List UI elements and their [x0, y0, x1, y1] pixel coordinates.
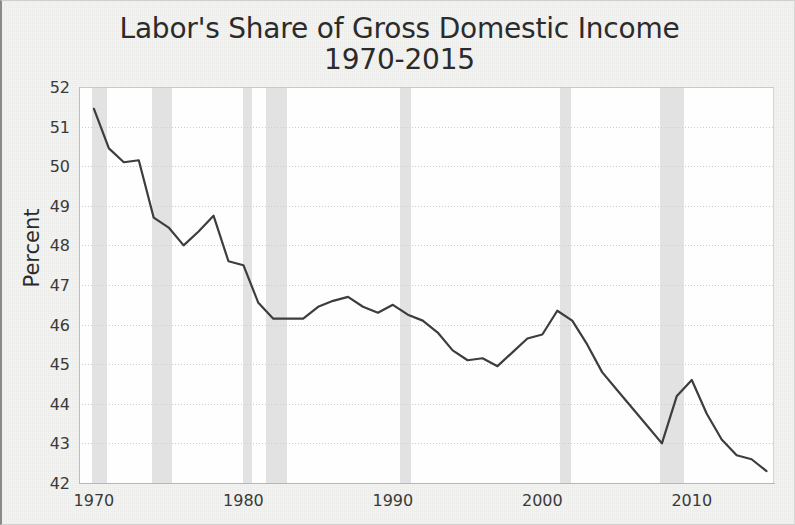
- x-tick-label: 1990: [353, 491, 433, 510]
- y-tick-label: 46: [10, 315, 70, 334]
- y-tick-label: 51: [10, 117, 70, 136]
- y-tick-label: 52: [10, 78, 70, 97]
- y-axis-line: [79, 87, 80, 484]
- x-tick-label: 2010: [652, 491, 732, 510]
- x-axis-ticks: 19701980199020002010: [79, 491, 774, 515]
- y-tick-label: 43: [10, 434, 70, 453]
- series-line-layer: [79, 87, 774, 483]
- x-tick-label: 1970: [54, 491, 134, 510]
- y-tick-label: 45: [10, 355, 70, 374]
- x-tick-label: 2000: [502, 491, 582, 510]
- y-tick-label: 50: [10, 157, 70, 176]
- chart-title-line-1: Labor's Share of Gross Domestic Income: [2, 13, 795, 44]
- y-tick-label: 42: [10, 474, 70, 493]
- y-tick-label: 47: [10, 276, 70, 295]
- plot-area: [79, 87, 774, 483]
- y-tick-label: 48: [10, 236, 70, 255]
- series-line-labor-share: [94, 109, 767, 471]
- chart-title: Labor's Share of Gross Domestic Income 1…: [2, 13, 795, 76]
- y-axis-ticks: 4243444546474849505152: [2, 87, 70, 483]
- x-axis-line: [79, 483, 775, 484]
- x-tick-label: 1980: [203, 491, 283, 510]
- y-tick-label: 49: [10, 196, 70, 215]
- y-tick-label: 44: [10, 394, 70, 413]
- chart-figure: Labor's Share of Gross Domestic Income 1…: [0, 0, 795, 525]
- chart-title-line-2: 1970-2015: [2, 44, 795, 75]
